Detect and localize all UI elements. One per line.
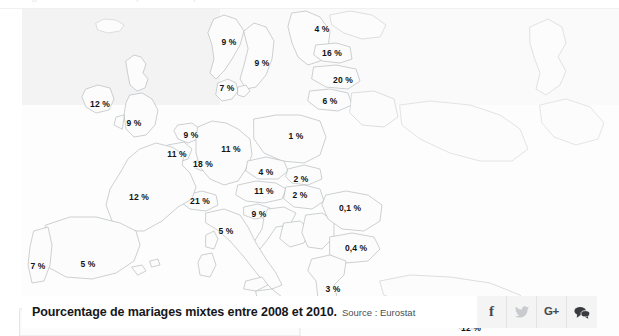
share-button-group[interactable]: f G+ bbox=[477, 296, 597, 328]
map-label-allemagne: 11 % bbox=[221, 145, 240, 154]
share-twitter-button[interactable] bbox=[507, 296, 537, 328]
map-label-bulgarie: 0,4 % bbox=[345, 244, 367, 253]
map-label-danemark: 7 % bbox=[220, 84, 235, 93]
caption-source: Source : Eurostat bbox=[342, 307, 415, 318]
map-label-slovaquie: 2 % bbox=[294, 175, 309, 184]
map-label-suisse: 21 % bbox=[190, 197, 210, 206]
map-label-grece: 3 % bbox=[326, 285, 341, 294]
share-google-plus-button[interactable]: G+ bbox=[537, 296, 567, 328]
map-outlines bbox=[0, 9, 619, 336]
map-label-norvege: 9 % bbox=[222, 38, 237, 47]
truncated-text: mariages mixtes en europe statistiques e… bbox=[0, 0, 619, 2]
map-label-france: 12 % bbox=[129, 193, 149, 202]
map-label-pays-bas: 9 % bbox=[184, 131, 199, 140]
map-label-estonie: 16 % bbox=[322, 49, 342, 58]
map-label-suede: 9 % bbox=[255, 59, 270, 68]
caption-title: Pourcentage de mariages mixtes entre 200… bbox=[32, 305, 337, 319]
map-label-irlande: 12 % bbox=[90, 100, 110, 109]
map-label-luxembourg: 18 % bbox=[193, 160, 213, 169]
map-label-hongrie: 2 % bbox=[293, 191, 308, 200]
europe-map: 4 %9 %16 %9 %20 %7 %6 %12 %9 %1 %9 %11 %… bbox=[0, 9, 619, 336]
map-label-belgique: 11 % bbox=[167, 150, 186, 159]
map-label-royaume-uni: 9 % bbox=[127, 119, 142, 128]
map-label-portugal: 7 % bbox=[31, 262, 46, 271]
share-facebook-button[interactable]: f bbox=[477, 296, 507, 328]
caption-bar: Pourcentage de mariages mixtes entre 200… bbox=[22, 296, 597, 328]
map-label-pologne: 1 % bbox=[289, 132, 304, 141]
map-label-lituanie: 6 % bbox=[323, 97, 338, 106]
map-label-autriche: 11 % bbox=[254, 187, 273, 196]
map-label-italie: 5 % bbox=[219, 227, 234, 236]
map-label-lettonie: 20 % bbox=[333, 76, 353, 85]
comment-bubble-icon bbox=[574, 306, 590, 319]
map-label-republique-tcheque: 4 % bbox=[259, 168, 274, 177]
map-label-espagne: 5 % bbox=[81, 260, 96, 269]
map-label-slovenie: 9 % bbox=[252, 210, 267, 219]
map-label-roumanie: 0,1 % bbox=[339, 204, 361, 213]
google-plus-icon: G+ bbox=[544, 306, 559, 318]
twitter-icon bbox=[515, 306, 529, 318]
screenshot-root: mariages mixtes en europe statistiques e… bbox=[0, 0, 619, 336]
share-comments-button[interactable] bbox=[567, 296, 597, 328]
map-label-finlande: 4 % bbox=[315, 25, 330, 34]
facebook-icon: f bbox=[489, 304, 494, 319]
